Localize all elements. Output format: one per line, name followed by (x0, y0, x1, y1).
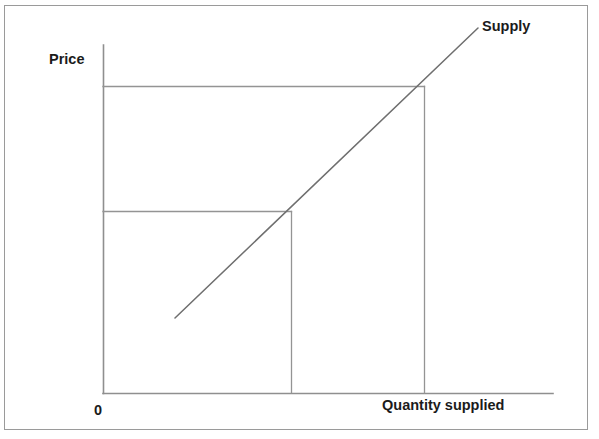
supply-curve-line (175, 28, 478, 318)
supply-curve-label: Supply (482, 19, 530, 34)
supply-curve-figure: Price Supply 0 Quantity supplied (0, 0, 599, 439)
y-axis-label: Price (49, 52, 84, 67)
origin-label: 0 (94, 403, 102, 418)
x-axis-label: Quantity supplied (382, 398, 504, 413)
supply-curve-plot (0, 0, 599, 439)
